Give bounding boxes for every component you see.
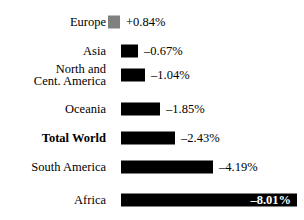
bar (121, 69, 145, 82)
chart-row: Oceania–1.85% (0, 95, 304, 123)
bar-area: +0.84% (106, 8, 304, 36)
chart-row: Africa–8.01% (0, 186, 304, 214)
bar-area: –8.01% (106, 186, 304, 214)
value-label: –8.01% (237, 194, 291, 207)
bar-chart: Europe+0.84%Asia–0.67%North and Cent. Am… (0, 0, 304, 220)
bar (121, 132, 175, 145)
category-label: Asia (0, 45, 106, 58)
bar (121, 45, 138, 58)
chart-row: North and Cent. America–1.04% (0, 61, 304, 89)
value-label: –0.67% (144, 45, 183, 58)
bar-area: –4.19% (106, 153, 304, 181)
category-label: Europe (0, 16, 106, 29)
value-label: –2.43% (181, 132, 220, 145)
bar-area: –1.04% (106, 61, 304, 89)
chart-row: Total World–2.43% (0, 124, 304, 152)
category-label: South America (0, 161, 106, 174)
value-label: +0.84% (126, 16, 165, 29)
value-label: –4.19% (219, 161, 258, 174)
category-label: Africa (0, 194, 106, 207)
category-label: Oceania (0, 103, 106, 116)
bar (121, 103, 160, 116)
category-label: North and Cent. America (0, 63, 106, 88)
value-label: –1.04% (151, 69, 190, 82)
value-label: –1.85% (166, 103, 205, 116)
chart-row: South America–4.19% (0, 153, 304, 181)
chart-row: Europe+0.84% (0, 8, 304, 36)
bar (108, 16, 120, 29)
bar (121, 161, 213, 174)
bar-area: –1.85% (106, 95, 304, 123)
bar-area: –2.43% (106, 124, 304, 152)
category-label: Total World (0, 132, 106, 145)
